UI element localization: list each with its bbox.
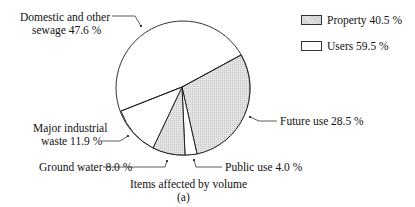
- legend-item-property: Property 40.5 %: [301, 14, 402, 26]
- label-ground-water: Ground water 8.0 %: [39, 161, 132, 173]
- label-domestic-line1: Domestic and other: [20, 11, 110, 23]
- label-industrial-line1: Major industrial: [33, 122, 107, 134]
- legend-label-property: Property 40.5 %: [327, 14, 402, 26]
- legend-swatch-property: [301, 15, 322, 25]
- legend-swatch-users: [301, 41, 322, 51]
- label-domestic-line2: sewage 47.6 %: [32, 24, 101, 36]
- chart-sublabel: (a): [177, 191, 190, 203]
- label-future-use: Future use 28.5 %: [280, 115, 364, 127]
- chart-caption: Items affected by volume: [130, 178, 247, 190]
- legend-item-users: Users 59.5 %: [301, 40, 389, 52]
- legend-label-users: Users 59.5 %: [327, 40, 389, 52]
- label-public-use: Public use 4.0 %: [225, 161, 302, 173]
- label-industrial-line2: waste 11.9 %: [41, 135, 102, 147]
